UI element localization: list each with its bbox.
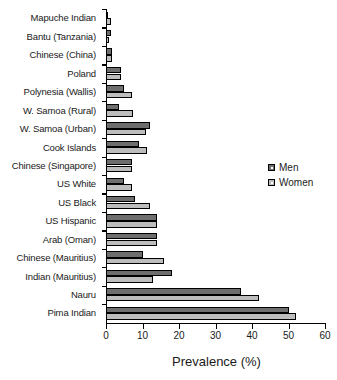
y-axis-tick [102, 138, 106, 139]
bar-group [106, 9, 325, 27]
bar-group [106, 64, 325, 82]
bar-women [106, 295, 259, 301]
bar-women [106, 166, 132, 172]
bar-men [106, 233, 157, 239]
legend-item-women: Women [268, 175, 313, 190]
bar-men [106, 288, 241, 294]
bar-women [106, 276, 153, 282]
category-label: US Hispanic [0, 212, 101, 230]
legend-swatch-women-icon [268, 179, 275, 186]
category-label: W. Samoa (Rural) [0, 101, 101, 119]
bar-men [106, 67, 121, 73]
x-axis-tick [143, 324, 144, 329]
x-axis-tick [325, 324, 326, 329]
bar-men [106, 251, 143, 257]
category-label: US White [0, 175, 101, 193]
category-label: US Black [0, 193, 101, 211]
bar-men [106, 196, 135, 202]
bar-women [106, 92, 132, 98]
category-label: Chinese (Singapore) [0, 157, 101, 175]
category-label: Nauru [0, 286, 101, 304]
bar-women [106, 203, 150, 209]
x-axis-tick-label: 40 [237, 331, 267, 341]
legend-label-women: Women [279, 178, 313, 188]
bar-men [106, 178, 124, 184]
y-axis-tick [102, 175, 106, 176]
bar-women [106, 221, 157, 227]
bar-women [106, 129, 146, 135]
bar-women [106, 74, 121, 80]
y-axis-tick [102, 27, 106, 28]
bar-group [106, 304, 325, 322]
y-axis-tick [102, 249, 106, 250]
category-label: Mapuche Indian [0, 9, 101, 27]
category-label: Chinese (Mauritius) [0, 249, 101, 267]
x-axis-tick-label: 50 [274, 331, 304, 341]
y-axis-tick [102, 9, 106, 10]
bar-group [106, 46, 325, 64]
y-axis-tick [102, 212, 106, 213]
y-axis-tick [102, 46, 106, 47]
bar-women [106, 313, 296, 319]
y-axis-tick [102, 83, 106, 84]
category-label: Indian (Mauritius) [0, 267, 101, 285]
category-label: Pima Indian [0, 304, 101, 322]
x-axis-title: Prevalence (%) [0, 355, 337, 368]
legend-label-men: Men [279, 163, 298, 173]
bar-women [106, 258, 164, 264]
x-axis-tick [216, 324, 217, 329]
category-label: W. Samoa (Urban) [0, 120, 101, 138]
bar-group [106, 193, 325, 211]
y-axis-tick [102, 64, 106, 65]
y-axis-tick [102, 304, 106, 305]
bar-group [106, 27, 325, 45]
bar-group [106, 120, 325, 138]
category-label: Cook Islands [0, 138, 101, 156]
category-label: Poland [0, 64, 101, 82]
y-axis-line [106, 9, 107, 323]
y-axis-tick [102, 157, 106, 158]
x-axis-tick-label: 0 [91, 331, 121, 341]
x-axis-tick [179, 324, 180, 329]
bar-men [106, 85, 124, 91]
chart-legend: Men Women [268, 160, 313, 190]
category-label: Bantu (Tanzania) [0, 27, 101, 45]
category-label: Polynesia (Wallis) [0, 83, 101, 101]
bar-group [106, 249, 325, 267]
y-axis-tick [102, 286, 106, 287]
bar-men [106, 159, 132, 165]
x-axis-tick [106, 324, 107, 329]
bar-group [106, 212, 325, 230]
bar-men [106, 270, 172, 276]
x-axis-tick-label: 10 [128, 331, 158, 341]
legend-swatch-men-icon [268, 164, 275, 171]
bar-men [106, 214, 157, 220]
bar-women [106, 110, 133, 116]
bar-group [106, 83, 325, 101]
bar-women [106, 147, 147, 153]
bar-men [106, 122, 150, 128]
bar-group [106, 138, 325, 156]
y-axis-tick [102, 101, 106, 102]
x-axis-tick-label: 20 [164, 331, 194, 341]
bar-women [106, 184, 132, 190]
category-axis-labels: Mapuche IndianBantu (Tanzania)Chinese (C… [0, 9, 101, 322]
bar-group [106, 101, 325, 119]
x-axis-tick [252, 324, 253, 329]
bar-group [106, 286, 325, 304]
x-axis-tick-label: 60 [310, 331, 337, 341]
y-axis-tick [102, 120, 106, 121]
bar-group [106, 230, 325, 248]
category-label: Arab (Oman) [0, 230, 101, 248]
bar-men [106, 141, 139, 147]
y-axis-tick [102, 267, 106, 268]
legend-item-men: Men [268, 160, 313, 175]
bar-men [106, 307, 289, 313]
category-label: Chinese (China) [0, 46, 101, 64]
y-axis-tick [102, 230, 106, 231]
x-axis-tick-label: 30 [201, 331, 231, 341]
bar-group [106, 267, 325, 285]
bar-men [106, 104, 119, 110]
bar-women [106, 240, 157, 246]
x-axis-tick [289, 324, 290, 329]
